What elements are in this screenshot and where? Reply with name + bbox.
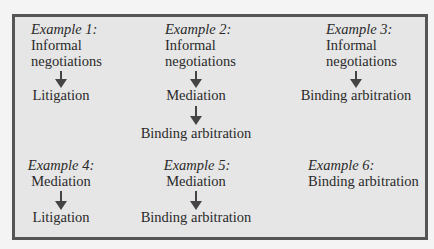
example-6-label: Example 6: — [308, 157, 374, 173]
example-1-label: Example 1: — [31, 21, 97, 37]
down-arrow-icon — [55, 191, 67, 210]
example-2-step-mediation: Mediation — [166, 87, 226, 103]
example-5-step-mediation: Mediation — [166, 173, 226, 189]
example-1-step-litigation: Litigation — [32, 87, 89, 103]
example-5-label: Example 5: — [164, 157, 230, 173]
down-arrow-icon — [190, 106, 202, 125]
example-3-label: Example 3: — [326, 21, 392, 37]
example-3-step-negotiations: negotiations — [326, 53, 397, 69]
down-arrow-icon — [350, 71, 362, 88]
example-5-step-binding-arbitration: Binding arbitration — [141, 209, 252, 225]
example-2-step-informal: Informal — [165, 37, 216, 53]
down-arrow-icon — [55, 71, 67, 88]
example-4-step-litigation: Litigation — [32, 209, 89, 225]
example-1-step-informal: Informal — [31, 37, 82, 53]
example-3-step-binding-arbitration: Binding arbitration — [301, 87, 412, 103]
example-4-label: Example 4: — [28, 157, 94, 173]
example-6-step-binding-arbitration: Binding arbitration — [308, 173, 419, 189]
example-2-step-negotiations: negotiations — [165, 53, 236, 69]
down-arrow-icon — [190, 191, 202, 210]
example-2-step-binding-arbitration: Binding arbitration — [141, 125, 252, 141]
down-arrow-icon — [190, 71, 202, 88]
example-2-label: Example 2: — [165, 21, 231, 37]
example-1-step-negotiations: negotiations — [31, 53, 102, 69]
example-4-step-mediation: Mediation — [31, 173, 91, 189]
example-3-step-informal: Informal — [326, 37, 377, 53]
